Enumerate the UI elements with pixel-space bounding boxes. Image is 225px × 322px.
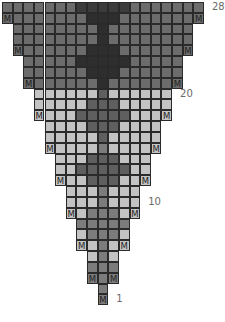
chart-cell bbox=[66, 110, 77, 121]
chart-cell bbox=[119, 164, 130, 175]
chart-cell bbox=[140, 143, 151, 154]
chart-cell bbox=[13, 2, 24, 13]
chart-cell bbox=[140, 89, 151, 100]
chart-cell bbox=[66, 2, 77, 13]
chart-cell bbox=[119, 219, 130, 230]
make-stitch-cell: M bbox=[193, 13, 204, 24]
chart-cell bbox=[55, 89, 66, 100]
chart-cell bbox=[76, 34, 87, 45]
chart-cell bbox=[108, 121, 119, 132]
chart-cell bbox=[76, 56, 87, 67]
chart-cell bbox=[98, 262, 109, 273]
chart-cell bbox=[172, 45, 183, 56]
chart-cell bbox=[151, 56, 162, 67]
chart-cell bbox=[13, 34, 24, 45]
chart-cell bbox=[34, 2, 45, 13]
chart-cell bbox=[119, 34, 130, 45]
make-stitch-cell: M bbox=[108, 273, 119, 284]
chart-cell bbox=[87, 154, 98, 165]
chart-cell bbox=[76, 45, 87, 56]
chart-cell bbox=[66, 56, 77, 67]
chart-cell bbox=[161, 56, 172, 67]
chart-cell bbox=[76, 121, 87, 132]
row-number-label: 28 bbox=[212, 1, 225, 12]
chart-cell bbox=[98, 78, 109, 89]
row-number-label: 20 bbox=[180, 88, 193, 99]
chart-cell bbox=[108, 240, 119, 251]
chart-cell bbox=[66, 197, 77, 208]
chart-cell bbox=[76, 143, 87, 154]
chart-cell bbox=[76, 229, 87, 240]
chart-cell bbox=[119, 67, 130, 78]
chart-cell bbox=[87, 164, 98, 175]
chart-cell bbox=[161, 89, 172, 100]
chart-cell bbox=[66, 99, 77, 110]
chart-cell bbox=[130, 45, 141, 56]
row-number-label: 1 bbox=[116, 293, 122, 304]
chart-cell bbox=[87, 56, 98, 67]
chart-cell bbox=[130, 13, 141, 24]
chart-cell bbox=[87, 262, 98, 273]
chart-cell bbox=[108, 186, 119, 197]
chart-cell bbox=[55, 132, 66, 143]
chart-cell bbox=[130, 56, 141, 67]
chart-cell bbox=[87, 45, 98, 56]
chart-cell bbox=[76, 164, 87, 175]
make-stitch-cell: M bbox=[87, 273, 98, 284]
chart-cell bbox=[76, 78, 87, 89]
chart-cell bbox=[98, 186, 109, 197]
chart-cell bbox=[172, 67, 183, 78]
chart-cell bbox=[161, 24, 172, 35]
chart-cell bbox=[151, 132, 162, 143]
chart-cell bbox=[34, 34, 45, 45]
chart-cell bbox=[108, 56, 119, 67]
chart-cell bbox=[55, 78, 66, 89]
chart-cell bbox=[98, 56, 109, 67]
chart-cell bbox=[23, 34, 34, 45]
chart-cell bbox=[140, 78, 151, 89]
chart-cell bbox=[130, 132, 141, 143]
chart-cell bbox=[108, 262, 119, 273]
chart-cell bbox=[13, 24, 24, 35]
chart-cell bbox=[34, 24, 45, 35]
chart-cell bbox=[87, 13, 98, 24]
chart-cell bbox=[98, 208, 109, 219]
chart-cell bbox=[119, 13, 130, 24]
chart-cell bbox=[119, 229, 130, 240]
chart-cell bbox=[76, 219, 87, 230]
chart-cell bbox=[45, 121, 56, 132]
chart-cell bbox=[130, 78, 141, 89]
chart-cell bbox=[98, 197, 109, 208]
chart-cell bbox=[119, 175, 130, 186]
chart-cell bbox=[87, 34, 98, 45]
chart-cell bbox=[140, 2, 151, 13]
chart-cell bbox=[98, 273, 109, 284]
chart-cell bbox=[161, 78, 172, 89]
chart-cell bbox=[55, 99, 66, 110]
chart-cell bbox=[130, 89, 141, 100]
chart-cell bbox=[183, 34, 194, 45]
chart-cell bbox=[98, 154, 109, 165]
chart-cell bbox=[151, 110, 162, 121]
chart-cell bbox=[140, 132, 151, 143]
chart-cell bbox=[87, 219, 98, 230]
chart-cell bbox=[108, 143, 119, 154]
chart-cell bbox=[45, 78, 56, 89]
chart-cell bbox=[140, 45, 151, 56]
chart-cell bbox=[119, 208, 130, 219]
chart-cell bbox=[45, 2, 56, 13]
chart-cell bbox=[23, 24, 34, 35]
chart-cell bbox=[76, 89, 87, 100]
chart-cell bbox=[119, 78, 130, 89]
chart-cell bbox=[161, 67, 172, 78]
chart-cell bbox=[87, 110, 98, 121]
chart-cell bbox=[66, 143, 77, 154]
chart-cell bbox=[140, 67, 151, 78]
chart-cell bbox=[98, 99, 109, 110]
chart-cell bbox=[151, 24, 162, 35]
chart-cell bbox=[130, 34, 141, 45]
chart-cell bbox=[98, 132, 109, 143]
chart-cell bbox=[87, 208, 98, 219]
chart-cell bbox=[108, 89, 119, 100]
chart-cell bbox=[55, 154, 66, 165]
